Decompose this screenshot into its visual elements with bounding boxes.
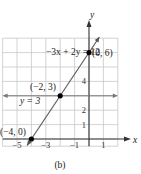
graph-figure: −3x + 2y = 12 (0, 6) (−2, 3) y = 3 (−4, … [0, 0, 141, 174]
point-label-0-6: (0, 6) [92, 48, 113, 59]
x-tick-label: −5 [12, 140, 21, 150]
data-point [29, 136, 34, 141]
x-axis-arrow-icon [124, 137, 131, 142]
point-label-neg2-3: (−2, 3) [30, 82, 56, 93]
x-tick-label: −3 [41, 140, 50, 150]
x-tick-label: −1 [70, 140, 79, 150]
y-axis-arrow-icon [87, 20, 92, 27]
y-tick-label: 1 [82, 120, 86, 130]
point-label-neg4-0: (−4, 0) [0, 127, 26, 138]
y-axis-label: y [89, 10, 95, 20]
y-tick-label: 2 [82, 105, 86, 115]
x-tick-label: 1 [101, 140, 105, 150]
hline-label: y = 3 [19, 96, 40, 106]
x-axis-label: x [132, 135, 138, 145]
left-arrow-icon [3, 94, 8, 99]
intersection-point [58, 93, 63, 98]
right-arrow-icon [113, 94, 118, 99]
figure-caption: (b) [54, 160, 65, 171]
